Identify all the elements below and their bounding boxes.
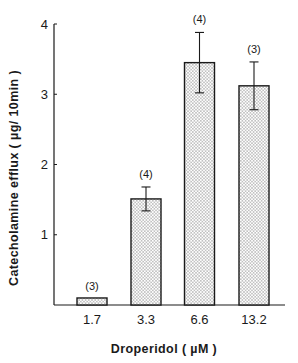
sample-size-label: (3) [85,280,98,292]
y-tick-label: 4 [41,17,48,32]
bar [77,298,107,305]
y-axis-title: Catecholamine efflux ( µg/ 10min ) [7,70,21,286]
y-tick-label: 3 [41,87,48,102]
y-tick-label: 1 [41,227,48,242]
bar-chart: 1234 (3)1.7(4)3.3(4)6.6(3)13.2 Catechola… [0,0,298,363]
x-tick-label: 1.7 [83,312,101,327]
x-axis-title: Droperidol ( µM ) [111,342,217,356]
x-tick-label: 13.2 [241,312,266,327]
y-tick-label: 2 [41,157,48,172]
x-tick-label: 3.3 [137,312,155,327]
bar [131,199,161,305]
x-tick-label: 6.6 [190,312,208,327]
bar [239,86,269,305]
sample-size-label: (3) [247,43,260,55]
bars: (3)1.7(4)3.3(4)6.6(3)13.2 [77,13,269,327]
sample-size-label: (4) [193,13,206,25]
bar [185,63,215,305]
sample-size-label: (4) [139,168,152,180]
